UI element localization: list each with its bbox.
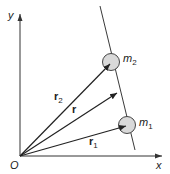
- mass-m1-circle: [119, 117, 136, 134]
- mass-m1-label: m1: [139, 116, 153, 131]
- diagram-canvas: y x O m2 m1 r2 r r1: [0, 0, 170, 174]
- vector-r1: [20, 126, 126, 156]
- vector-r1-label: r1: [89, 135, 98, 150]
- mass-m2-label: m2: [123, 52, 137, 67]
- origin-label: O: [10, 159, 19, 171]
- y-axis-label: y: [7, 9, 15, 21]
- vector-r2-label: r2: [54, 90, 63, 105]
- x-axis-label: x: [155, 159, 162, 171]
- mass-m2-circle: [103, 54, 120, 71]
- vector-r-label: r: [72, 103, 77, 115]
- vector-r: [20, 93, 117, 156]
